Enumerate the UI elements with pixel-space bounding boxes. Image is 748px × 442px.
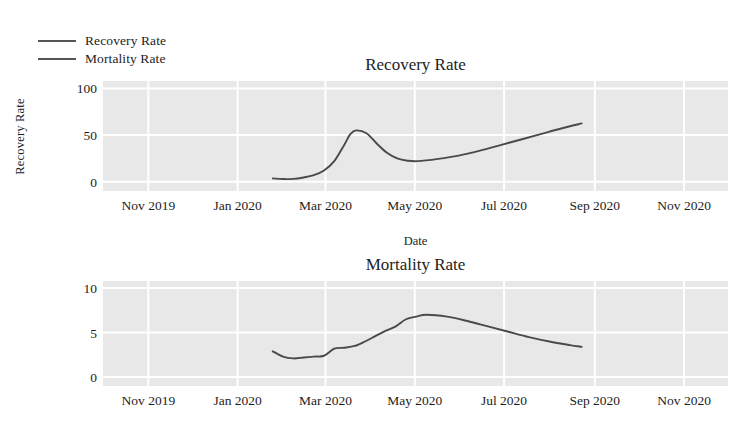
plot-area-mortality: 0 5 10 Nov 2019Jan 2020Mar 2020May 2020J… bbox=[103, 281, 728, 386]
x-tick-label: Mar 2020 bbox=[299, 393, 352, 409]
chart-recovery-rate: Recovery Rate 0 50 100 Nov 2019Jan 2020M… bbox=[0, 55, 748, 220]
x-tick-label: Sep 2020 bbox=[569, 198, 620, 214]
y-tick-mortality-0: 0 bbox=[90, 371, 97, 384]
plot-canvas-mortality bbox=[103, 281, 728, 386]
legend-line-swatch-recovery bbox=[38, 40, 76, 42]
x-tick-label: Jul 2020 bbox=[481, 393, 527, 409]
x-axis-ticks-mortality: Nov 2019Jan 2020Mar 2020May 2020Jul 2020… bbox=[103, 393, 728, 411]
y-tick-recovery-100: 100 bbox=[77, 82, 97, 95]
plot-area-recovery: 0 50 100 Nov 2019Jan 2020Mar 2020May 202… bbox=[103, 81, 728, 191]
chart-mortality-rate: Mortality Rate 0 5 10 Nov 2019Jan 2020Ma… bbox=[0, 255, 748, 415]
x-axis-label-date: Date bbox=[103, 234, 728, 249]
series-line bbox=[273, 123, 582, 179]
x-tick-label: Nov 2019 bbox=[122, 393, 176, 409]
x-tick-label: Nov 2020 bbox=[657, 198, 711, 214]
y-tick-recovery-0: 0 bbox=[90, 175, 97, 188]
x-tick-label: May 2020 bbox=[387, 198, 442, 214]
chart-title-mortality: Mortality Rate bbox=[103, 255, 728, 275]
series-line bbox=[273, 315, 582, 359]
x-tick-label: Nov 2020 bbox=[657, 393, 711, 409]
plot-canvas-recovery bbox=[103, 81, 728, 191]
x-axis-ticks-recovery: Nov 2019Jan 2020Mar 2020May 2020Jul 2020… bbox=[103, 198, 728, 216]
x-tick-label: Nov 2019 bbox=[122, 198, 176, 214]
y-tick-recovery-50: 50 bbox=[84, 129, 98, 142]
x-tick-label: Jan 2020 bbox=[213, 393, 261, 409]
x-tick-label: Jul 2020 bbox=[481, 198, 527, 214]
legend-label-recovery: Recovery Rate bbox=[85, 33, 166, 48]
x-tick-label: Jan 2020 bbox=[213, 198, 261, 214]
figure-root: Recovery Rate Mortality Rate Recovery Ra… bbox=[0, 0, 748, 442]
legend-item-recovery-rate: Recovery Rate bbox=[38, 33, 166, 48]
x-tick-label: Mar 2020 bbox=[299, 198, 352, 214]
x-tick-label: May 2020 bbox=[387, 393, 442, 409]
chart-title-recovery: Recovery Rate bbox=[103, 55, 728, 75]
x-tick-label: Sep 2020 bbox=[569, 393, 620, 409]
y-tick-mortality-10: 10 bbox=[84, 282, 98, 295]
y-tick-mortality-5: 5 bbox=[90, 326, 97, 339]
